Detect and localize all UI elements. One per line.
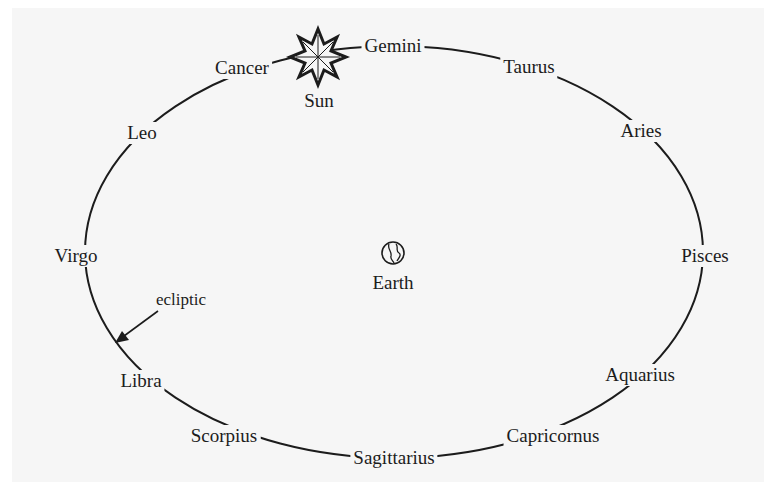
- globe-icon: [382, 242, 404, 264]
- constellation-cancer: Cancer: [212, 57, 272, 79]
- constellation-capricornus: Capricornus: [504, 425, 603, 447]
- constellation-aquarius: Aquarius: [602, 364, 678, 386]
- constellation-scorpius: Scorpius: [188, 425, 261, 447]
- constellation-leo: Leo: [124, 122, 160, 144]
- earth-label: Earth: [369, 272, 416, 294]
- ecliptic-orbit: [85, 46, 703, 458]
- constellation-taurus: Taurus: [500, 56, 557, 78]
- constellation-virgo: Virgo: [52, 245, 101, 267]
- constellation-libra: Libra: [117, 370, 164, 392]
- constellation-aries: Aries: [617, 120, 664, 142]
- sun-star-icon: [290, 29, 346, 85]
- constellation-pisces: Pisces: [678, 245, 732, 267]
- ecliptic-label: ecliptic: [153, 289, 209, 311]
- sun-label: Sun: [301, 90, 337, 112]
- ecliptic-diagram: [0, 0, 774, 496]
- constellation-gemini: Gemini: [362, 35, 425, 57]
- constellation-sagittarius: Sagittarius: [350, 447, 437, 469]
- ecliptic-arrow: [115, 311, 158, 343]
